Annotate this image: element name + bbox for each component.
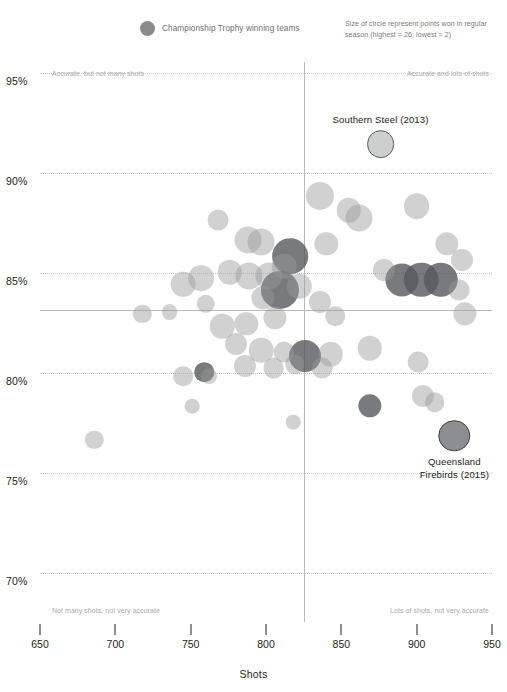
data-point-winner[interactable] bbox=[358, 394, 381, 417]
plot-area: 95%90%85%80%75%70% Accurate, but not man… bbox=[40, 62, 492, 622]
data-point[interactable] bbox=[173, 366, 193, 386]
x-axis-tick-label: 850 bbox=[333, 638, 351, 650]
data-point[interactable] bbox=[404, 193, 430, 219]
data-point-highlighted[interactable] bbox=[367, 130, 395, 158]
data-point[interactable] bbox=[185, 399, 200, 414]
data-point[interactable] bbox=[285, 354, 305, 374]
data-point[interactable] bbox=[326, 306, 346, 326]
y-axis-tick-label: 90% bbox=[6, 175, 27, 187]
gridline bbox=[40, 573, 492, 574]
annotation-queensland-firebirds: QueenslandFirebirds (2015) bbox=[420, 456, 489, 482]
annotation-southern-steel: Southern Steel (2013) bbox=[333, 114, 429, 127]
bubble-size-note: Size of circle represent points won in r… bbox=[345, 19, 505, 41]
data-point[interactable] bbox=[162, 304, 178, 320]
x-axis-tick bbox=[416, 624, 417, 635]
x-axis-tick-label: 900 bbox=[408, 638, 426, 650]
data-point[interactable] bbox=[263, 306, 286, 329]
quadrant-label-bottom-right: Lots of shots, not very accurate bbox=[390, 607, 489, 614]
x-axis-tick bbox=[492, 624, 493, 635]
data-point[interactable] bbox=[234, 355, 256, 377]
x-axis-tick bbox=[190, 624, 191, 635]
x-axis-tick bbox=[341, 624, 342, 635]
x-axis-tick bbox=[115, 624, 116, 635]
data-point[interactable] bbox=[306, 182, 334, 210]
x-axis-tick-label: 750 bbox=[182, 638, 200, 650]
data-point[interactable] bbox=[287, 274, 312, 299]
data-point[interactable] bbox=[451, 249, 473, 271]
data-point[interactable] bbox=[207, 210, 228, 231]
x-axis-tick bbox=[266, 624, 267, 635]
y-axis-tick-label: 75% bbox=[6, 475, 27, 487]
y-axis-tick-label: 70% bbox=[6, 575, 27, 587]
data-point[interactable] bbox=[225, 333, 247, 355]
data-point[interactable] bbox=[171, 272, 196, 297]
data-point[interactable] bbox=[373, 259, 395, 281]
filled-circle-icon bbox=[140, 21, 155, 36]
chart-canvas: Championship Trophy winning teams Size o… bbox=[0, 0, 507, 692]
quadrant-label-top-right: Accurate and lots of shots bbox=[407, 70, 489, 77]
x-axis: 650700750800850900950 bbox=[40, 624, 492, 664]
data-point[interactable] bbox=[346, 205, 373, 232]
data-point[interactable] bbox=[286, 415, 301, 430]
y-axis-tick-label: 85% bbox=[6, 275, 27, 287]
data-point[interactable] bbox=[311, 358, 332, 379]
x-axis-tick-label: 700 bbox=[107, 638, 125, 650]
legend: Championship Trophy winning teams bbox=[140, 21, 300, 36]
quadrant-label-bottom-left: Not many shots, not very accurate bbox=[52, 607, 160, 614]
data-point[interactable] bbox=[425, 392, 445, 412]
annotation-line: Queensland bbox=[420, 456, 489, 469]
x-axis-tick bbox=[40, 624, 41, 635]
data-point[interactable] bbox=[358, 336, 383, 361]
x-axis-tick-label: 800 bbox=[257, 638, 275, 650]
y-axis-tick-label: 95% bbox=[6, 75, 27, 87]
data-point[interactable] bbox=[248, 229, 275, 256]
quadrant-label-top-left: Accurate, but not many shots bbox=[52, 70, 144, 77]
x-axis-tick-label: 650 bbox=[31, 638, 49, 650]
x-axis-title: Shots bbox=[0, 668, 507, 680]
data-point[interactable] bbox=[408, 352, 429, 373]
x-axis-tick-label: 950 bbox=[483, 638, 501, 650]
data-point[interactable] bbox=[201, 368, 217, 384]
data-point-highlighted[interactable] bbox=[439, 420, 470, 451]
data-point[interactable] bbox=[263, 358, 284, 379]
gridline bbox=[40, 173, 492, 174]
legend-label: Championship Trophy winning teams bbox=[162, 24, 300, 33]
data-point[interactable] bbox=[315, 232, 338, 255]
data-point[interactable] bbox=[133, 305, 151, 323]
data-point[interactable] bbox=[448, 280, 469, 301]
data-point[interactable] bbox=[85, 431, 103, 449]
data-point[interactable] bbox=[453, 302, 476, 325]
y-axis-tick-label: 80% bbox=[6, 375, 27, 387]
data-point[interactable] bbox=[235, 312, 258, 335]
annotation-line: Firebirds (2015) bbox=[420, 469, 489, 482]
